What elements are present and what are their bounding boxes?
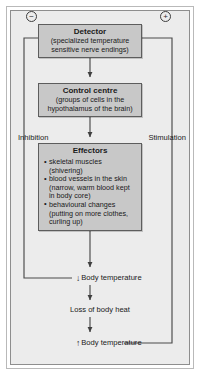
body-temperature-increase-text: Body temperature — [81, 338, 141, 347]
list-item: skeletal muscles (shivering) — [44, 158, 139, 175]
up-arrow-icon: ↑ — [76, 339, 80, 348]
effectors-box: Effectors skeletal muscles (shivering) b… — [38, 143, 142, 231]
circled-plus-icon: + — [160, 11, 171, 22]
effectors-title: Effectors — [39, 146, 141, 156]
body-temperature-increase-label: ↑Body temperature — [76, 338, 142, 348]
effectors-list: skeletal muscles (shivering) blood vesse… — [39, 158, 141, 227]
detector-box: Detector (specialized temperature sensit… — [38, 24, 142, 58]
stimulation-label: Stimulation — [148, 133, 186, 142]
circled-minus-icon: − — [26, 11, 37, 22]
effector-item-cont2: curling up) — [49, 218, 139, 227]
body-temperature-decrease-text: Body temperature — [81, 273, 141, 282]
loss-of-body-heat-label: Loss of body heat — [70, 305, 130, 314]
effector-item-main: behavioural changes — [49, 200, 115, 209]
control-centre-box: Control centre (groups of cells in the h… — [38, 83, 142, 117]
control-centre-subtitle-line2: hypothalamus of the brain) — [39, 105, 141, 114]
inhibition-label: Inhibition — [18, 133, 48, 142]
detector-subtitle-line2: sensitive nerve endings) — [39, 46, 141, 55]
effector-item-main: blood vessels in the skin — [49, 174, 127, 183]
body-temperature-decrease-label: ↓Body temperature — [76, 273, 142, 283]
thermoregulation-feedback-diagram: − + Detector (specialized temperature se… — [0, 0, 200, 375]
effector-item-main: skeletal muscles — [49, 157, 102, 166]
list-item: blood vessels in the skin (narrow, warm … — [44, 175, 139, 201]
down-arrow-icon: ↓ — [76, 274, 80, 283]
list-item: behavioural changes (putting on more clo… — [44, 201, 139, 227]
